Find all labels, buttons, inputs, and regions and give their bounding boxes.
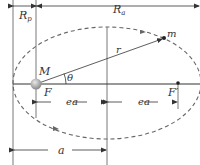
focus-label: F <box>43 86 52 99</box>
orbiting-body-label: m <box>167 28 176 39</box>
central-body-M <box>31 79 42 90</box>
theta-arc <box>64 74 66 85</box>
orbit-svg: Rp Ra M m F F′ r θ ea ea a <box>0 0 200 165</box>
theta-label: θ <box>67 72 73 83</box>
orbit-direction-arrow-top <box>140 30 146 34</box>
empty-focus-label: F′ <box>167 86 179 99</box>
ea-right-label: ea <box>138 96 150 107</box>
radius-vector <box>36 39 162 84</box>
ea-left-label: ea <box>66 96 78 107</box>
orbiting-body-m <box>162 36 166 40</box>
empty-focus-point <box>176 81 180 85</box>
central-body-label: M <box>38 65 51 78</box>
ra-label: Ra <box>112 3 125 17</box>
semi-major-label: a <box>58 144 65 157</box>
rp-label: Rp <box>18 9 32 23</box>
orbit-diagram: Rp Ra M m F F′ r θ ea ea a <box>0 0 200 165</box>
